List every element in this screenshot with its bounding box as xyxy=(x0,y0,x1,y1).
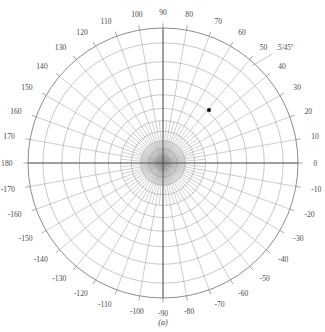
annotation-label: .5/45° xyxy=(276,44,294,52)
polar-angle-tick-label: -100 xyxy=(130,307,144,316)
polar-angle-tick-label: 160 xyxy=(10,107,22,116)
data-point-marker xyxy=(207,108,210,111)
polar-angle-tick-label: 110 xyxy=(100,17,111,26)
polar-angle-tick-label: 120 xyxy=(76,28,88,37)
polar-grid-svg: 0102030405060708090100110120130140150160… xyxy=(0,0,325,332)
data-series-markers xyxy=(207,108,210,111)
polar-angle-tick-label: -80 xyxy=(184,307,194,316)
polar-angle-tick-label: -110 xyxy=(98,300,112,309)
polar-angle-tick-label: -30 xyxy=(293,234,303,243)
polar-angle-tick-label: 70 xyxy=(214,17,222,26)
polar-angle-tick-label: -60 xyxy=(238,289,248,298)
polar-angle-tick-label: -170 xyxy=(1,185,15,194)
polar-angle-tick-label: 140 xyxy=(36,62,48,71)
polar-angle-tick-label: -130 xyxy=(52,274,66,283)
polar-angle-tick-label: -50 xyxy=(260,274,270,283)
polar-angle-tick-label: 30 xyxy=(293,83,301,92)
polar-angle-tick-label: 170 xyxy=(3,132,15,141)
polar-angle-tick-label: 180 xyxy=(1,159,13,168)
polar-angle-tick-label: 50 xyxy=(260,43,268,52)
polar-angle-tick-label: -70 xyxy=(214,300,224,309)
polar-angle-tick-label: 40 xyxy=(278,62,286,71)
polar-angle-tick-label: -120 xyxy=(74,289,88,298)
polar-angle-tick-label: -40 xyxy=(278,255,288,264)
polar-angle-tick-label: -160 xyxy=(8,210,22,219)
figure-caption: (a) xyxy=(158,318,168,327)
polar-angle-tick-label: -90 xyxy=(158,309,168,318)
polar-angle-tick-label: -20 xyxy=(304,210,314,219)
polar-angle-tick-label: 130 xyxy=(55,43,67,52)
polar-angle-tick-label: 80 xyxy=(185,10,193,19)
polar-angle-tick-label: 100 xyxy=(131,10,143,19)
polar-plot-figure: 0102030405060708090100110120130140150160… xyxy=(0,0,325,332)
polar-angle-tick-label: -10 xyxy=(311,185,321,194)
polar-angle-tick-label: -150 xyxy=(19,234,33,243)
polar-angle-tick-label: 90 xyxy=(159,8,167,17)
polar-angle-tick-label: 20 xyxy=(304,107,312,116)
polar-angle-tick-label: 10 xyxy=(311,132,319,141)
polar-angle-tick-label: 0 xyxy=(314,159,318,168)
polar-angle-tick-label: 150 xyxy=(21,83,33,92)
polar-angle-tick-label: -140 xyxy=(34,255,48,264)
polar-angle-tick-label: 60 xyxy=(238,28,246,37)
